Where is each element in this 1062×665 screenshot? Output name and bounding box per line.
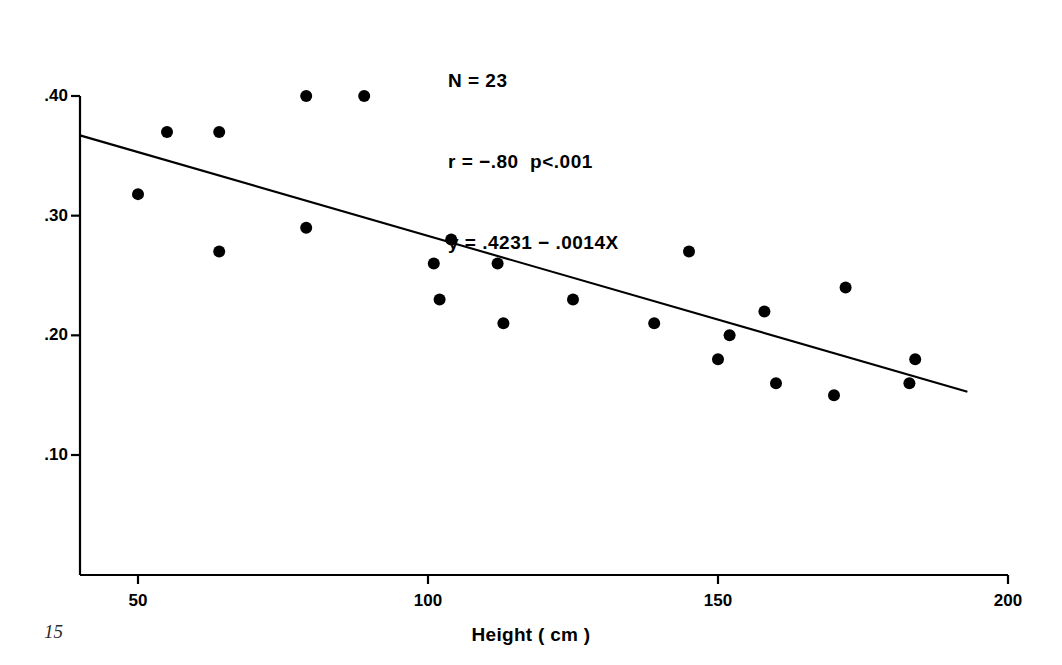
data-point-22	[903, 377, 915, 389]
data-point-15	[712, 353, 724, 365]
data-point-17	[758, 305, 770, 317]
scatter-plot-figure: N = 23 r = −.80 p<.001 y = .4231 − .0014…	[0, 0, 1062, 665]
data-point-1	[161, 126, 173, 138]
y-tick-label-2: .30	[18, 206, 68, 226]
data-point-4	[358, 90, 370, 102]
data-point-3	[300, 90, 312, 102]
annotation-line-r: r = −.80 p<.001	[448, 149, 619, 176]
data-point-19	[828, 389, 840, 401]
x-tick-label-3: 200	[994, 591, 1022, 611]
annotation-line-n: N = 23	[448, 68, 619, 95]
annotation-line-equation: y = .4231 − .0014X	[448, 230, 619, 257]
x-tick-label-0: 50	[129, 591, 148, 611]
data-point-0	[132, 188, 144, 200]
x-axis-title: Height ( cm )	[0, 624, 1062, 646]
x-tick-label-2: 150	[704, 591, 732, 611]
data-point-20	[840, 281, 852, 293]
data-point-7	[428, 258, 440, 270]
data-point-13	[648, 317, 660, 329]
y-tick-label-1: .20	[18, 325, 68, 345]
data-point-11	[497, 317, 509, 329]
data-point-14	[683, 246, 695, 258]
data-point-21	[909, 353, 921, 365]
statistics-annotation: N = 23 r = −.80 p<.001 y = .4231 − .0014…	[448, 14, 619, 311]
data-point-9	[434, 293, 446, 305]
y-tick-label-0: .10	[18, 445, 68, 465]
data-point-5	[300, 222, 312, 234]
data-point-18	[770, 377, 782, 389]
data-point-2	[213, 126, 225, 138]
y-tick-label-3: .40	[18, 86, 68, 106]
data-point-6	[213, 246, 225, 258]
x-tick-label-1: 100	[414, 591, 442, 611]
page-number: 15	[44, 621, 63, 643]
data-point-16	[724, 329, 736, 341]
